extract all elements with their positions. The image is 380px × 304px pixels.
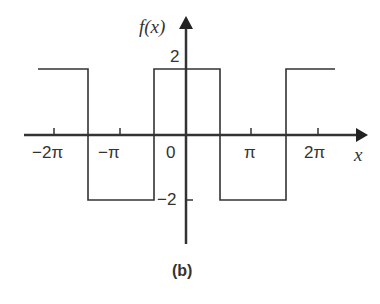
- x-axis-arrow-icon: [356, 128, 368, 142]
- x-axis-label: x: [354, 144, 362, 166]
- square-wave-chart: f(x) 2 −2 −2π −π 0 π 2π x (b): [0, 0, 380, 304]
- y-axis-label: f(x): [139, 16, 165, 38]
- x-tick-pi: π: [244, 143, 256, 163]
- figure-caption: (b): [172, 262, 192, 280]
- x-tick-0: 0: [166, 143, 175, 163]
- x-tick-negpi: −π: [98, 143, 120, 163]
- y-tick-neg2: −2: [157, 190, 176, 210]
- y-tick-2: 2: [170, 47, 179, 67]
- x-tick-neg2pi: −2π: [32, 143, 63, 163]
- x-tick-2pi: 2π: [304, 143, 325, 163]
- y-axis-arrow-icon: [179, 16, 193, 29]
